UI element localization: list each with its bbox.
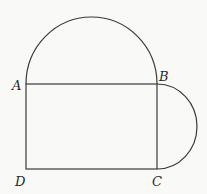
semicircle-bc	[157, 84, 197, 169]
point-label-b: B	[158, 69, 169, 84]
point-label-a: A	[11, 78, 21, 93]
diagram-svg: A B C D	[0, 0, 207, 194]
point-label-c: C	[152, 174, 162, 189]
geometry-diagram: A B C D	[0, 0, 207, 194]
semicircle-ab	[26, 17, 157, 84]
rectangle-abcd	[26, 84, 157, 169]
point-label-d: D	[14, 174, 26, 189]
